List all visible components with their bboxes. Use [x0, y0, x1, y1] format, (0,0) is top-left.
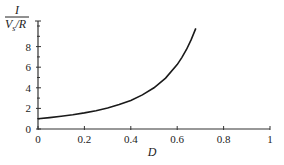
y-tick-label: 0: [26, 123, 32, 135]
x-tick-label: 1: [267, 133, 273, 145]
series-line: [38, 28, 196, 118]
y-tick-label: 6: [26, 61, 32, 73]
x-axis-label: D: [147, 145, 157, 159]
y-label-rest: /R: [14, 17, 26, 31]
y-tick-label: 2: [26, 102, 32, 114]
y-axis-label-numerator: I: [14, 3, 20, 17]
y-tick-label: 4: [26, 82, 32, 94]
y-tick-label: 8: [26, 41, 32, 53]
x-tick-label: 0.6: [170, 133, 184, 145]
y-axis-label: I Vs/R: [5, 3, 29, 33]
x-tick-label: 0.4: [124, 133, 138, 145]
y-axis-label-denominator: Vs/R: [5, 17, 27, 33]
x-tick-label: 0.8: [217, 133, 231, 145]
chart: 00.20.40.60.8102468 D I Vs/R: [0, 0, 284, 165]
x-tick-label: 0.2: [78, 133, 92, 145]
axes: [35, 21, 270, 129]
x-tick-label: 0: [35, 133, 41, 145]
